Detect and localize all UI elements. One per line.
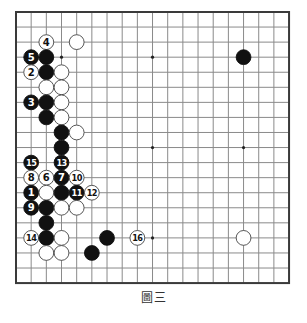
black-stone-icon [39,50,54,65]
black-stone: 3 [24,95,39,110]
move-number: 15 [26,158,37,168]
black-stone [54,125,69,140]
white-stone [54,80,69,95]
white-stone [54,95,69,110]
white-stone: 14 [24,231,39,246]
white-stone-icon [69,35,84,50]
black-stone: 13 [54,155,69,170]
black-stone [39,110,54,125]
white-stone [54,246,69,261]
white-stone [54,231,69,246]
move-number: 4 [43,37,50,48]
black-stone-icon [54,125,69,140]
white-stone-icon [54,200,69,215]
black-stone [39,65,54,80]
black-stone-icon [54,185,69,200]
white-stone-icon [54,246,69,261]
white-stone-icon [54,110,69,125]
black-stone [39,95,54,110]
black-stone-icon [39,95,54,110]
move-number: 14 [26,233,37,243]
black-stone-icon [84,246,99,261]
star-point-icon [151,146,154,149]
move-number: 3 [28,97,35,108]
move-number: 9 [28,202,35,213]
black-stone [236,50,251,65]
black-stone [100,231,115,246]
black-stone: 7 [54,170,69,185]
white-stone-icon [54,95,69,110]
move-number: 7 [58,172,65,183]
white-stone-icon [39,80,54,95]
black-stone-icon [39,65,54,80]
move-number: 2 [28,67,35,78]
move-number: 11 [72,188,83,198]
move-number: 10 [72,173,83,183]
move-number: 12 [87,188,97,198]
black-stone-icon [236,50,251,65]
black-stone [39,215,54,230]
black-stone-icon [39,110,54,125]
white-stone-icon [39,246,54,261]
black-stone [39,50,54,65]
white-stone: 10 [69,170,84,185]
white-stone [39,80,54,95]
white-stone [54,65,69,80]
black-stone-icon [100,231,115,246]
white-stone [236,231,251,246]
star-point-icon [242,146,245,149]
white-stone: 4 [39,35,54,50]
move-number: 13 [56,158,67,168]
star-point-icon [151,56,154,59]
black-stone [39,231,54,246]
white-stone-icon [54,80,69,95]
black-stone-icon [39,200,54,215]
white-stone-icon [69,125,84,140]
black-stone: 5 [24,50,39,65]
white-stone [69,35,84,50]
white-stone: 16 [130,231,145,246]
move-number: 16 [132,233,143,243]
star-point-icon [151,236,154,239]
white-stone-icon [236,231,251,246]
white-stone [69,200,84,215]
diagram-caption: 圖三 [0,288,307,305]
white-stone [69,125,84,140]
white-stone-icon [39,185,54,200]
white-stone: 2 [24,65,39,80]
black-stone [84,246,99,261]
move-number: 6 [43,172,50,183]
white-stone [54,200,69,215]
white-stone: 8 [24,170,39,185]
black-stone: 9 [24,200,39,215]
black-stone-icon [39,231,54,246]
white-stone [54,110,69,125]
black-stone: 11 [69,185,84,200]
white-stone-icon [69,200,84,215]
white-stone [39,185,54,200]
white-stone: 6 [39,170,54,185]
move-number: 5 [28,52,35,63]
black-stone [39,200,54,215]
white-stone-icon [54,65,69,80]
black-stone: 1 [24,185,39,200]
black-stone [54,185,69,200]
move-number: 8 [28,172,35,183]
go-board: 45231513867101111291416 [0,0,307,290]
black-stone-icon [39,215,54,230]
move-number: 1 [28,187,35,198]
white-stone [39,246,54,261]
black-stone: 15 [24,155,39,170]
star-point-icon [60,56,63,59]
white-stone-icon [54,231,69,246]
black-stone [54,140,69,155]
black-stone-icon [54,140,69,155]
white-stone: 12 [84,185,99,200]
